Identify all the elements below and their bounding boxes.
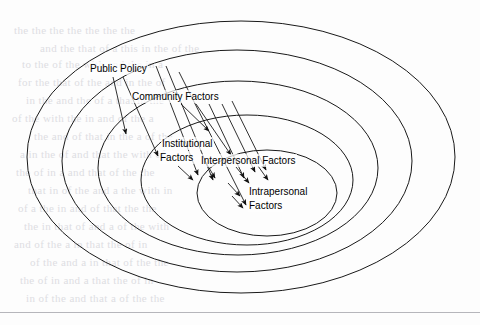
label-intrapersonal-factors-line2: Factors [248,199,283,212]
influence-arrow-a14 [258,166,268,180]
influence-arrow-a16 [232,196,243,208]
scanned-page: the the the the the the theand the that … [0,0,480,325]
label-community-factors: Community Factors [131,90,220,103]
label-institutional-factors-line1: Institutional [161,137,214,150]
ring-institutional [98,81,378,255]
page-bottom-rule [0,312,480,313]
influence-arrow-a1 [113,77,126,134]
influence-arrow-a13 [236,167,249,183]
label-interpersonal-factors: Interpersonal Factors [200,154,297,167]
influence-arrow-a11 [178,166,193,180]
label-intrapersonal-factors-line1: Intrapersonal [248,185,308,198]
label-institutional-factors-line2: Factors [159,151,194,164]
label-public-policy: Public Policy [89,62,148,75]
influence-arrow-a2 [123,77,158,156]
